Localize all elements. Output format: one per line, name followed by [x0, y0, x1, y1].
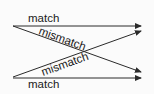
top-to-bottom-mismatch-label: mismatch: [37, 25, 87, 53]
bottom-match-label: match: [28, 78, 59, 90]
top-match-label: match: [28, 12, 59, 24]
match-mismatch-diagram: match mismatch mismatch match: [0, 0, 154, 94]
top-match-edge: match: [13, 12, 141, 26]
bottom-to-top-mismatch-label: mismatch: [40, 50, 90, 78]
bottom-match-edge: match: [13, 78, 141, 90]
